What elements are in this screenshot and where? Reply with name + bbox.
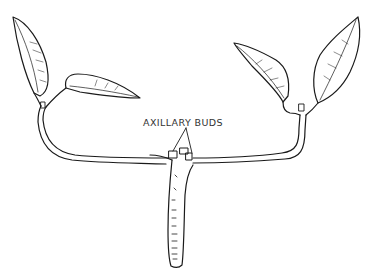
axillary-buds — [169, 128, 192, 160]
left-spreading-leaf — [66, 74, 141, 98]
left-upright-leaf — [13, 17, 48, 96]
right-branch — [193, 102, 318, 163]
right-spreading-leaf — [234, 43, 289, 102]
right-upright-leaf — [314, 17, 360, 103]
plant-diagram — [0, 0, 375, 277]
main-stem — [150, 155, 193, 267]
axillary-buds-label: AXILLARY BUDS — [143, 117, 223, 128]
